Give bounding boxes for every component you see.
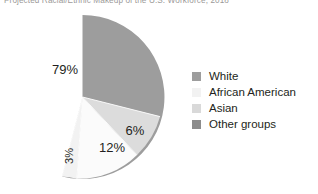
legend-item-asian: Asian <box>192 101 316 116</box>
legend-item-white: White <box>192 69 316 84</box>
legend-swatch-white <box>192 72 201 81</box>
legend-label-asian: Asian <box>209 102 238 115</box>
legend-swatch-asian <box>192 104 201 113</box>
pie-chart-svg: 79% 12% 6% 3% <box>0 14 165 180</box>
legend-item-other-groups: Other groups <box>192 117 316 132</box>
legend-item-african-american: African American <box>192 85 316 100</box>
pie-label-other-groups: 6% <box>126 123 145 138</box>
legend-label-african-american: African American <box>209 86 296 99</box>
legend-label-other-groups: Other groups <box>209 118 276 131</box>
legend-swatch-other-groups <box>192 120 201 129</box>
legend: White African American Asian Other group… <box>192 69 316 133</box>
pie-chart: 79% 12% 6% 3% <box>0 14 165 180</box>
pie-label-asian: 12% <box>99 140 125 155</box>
pie-label-african-american: 3% <box>63 148 75 164</box>
legend-swatch-african-american <box>192 88 201 97</box>
chart-title: Projected Racial/Ethnic Makeup of the U.… <box>4 0 229 5</box>
pie-label-white: 79% <box>52 62 78 77</box>
legend-label-white: White <box>209 70 238 83</box>
